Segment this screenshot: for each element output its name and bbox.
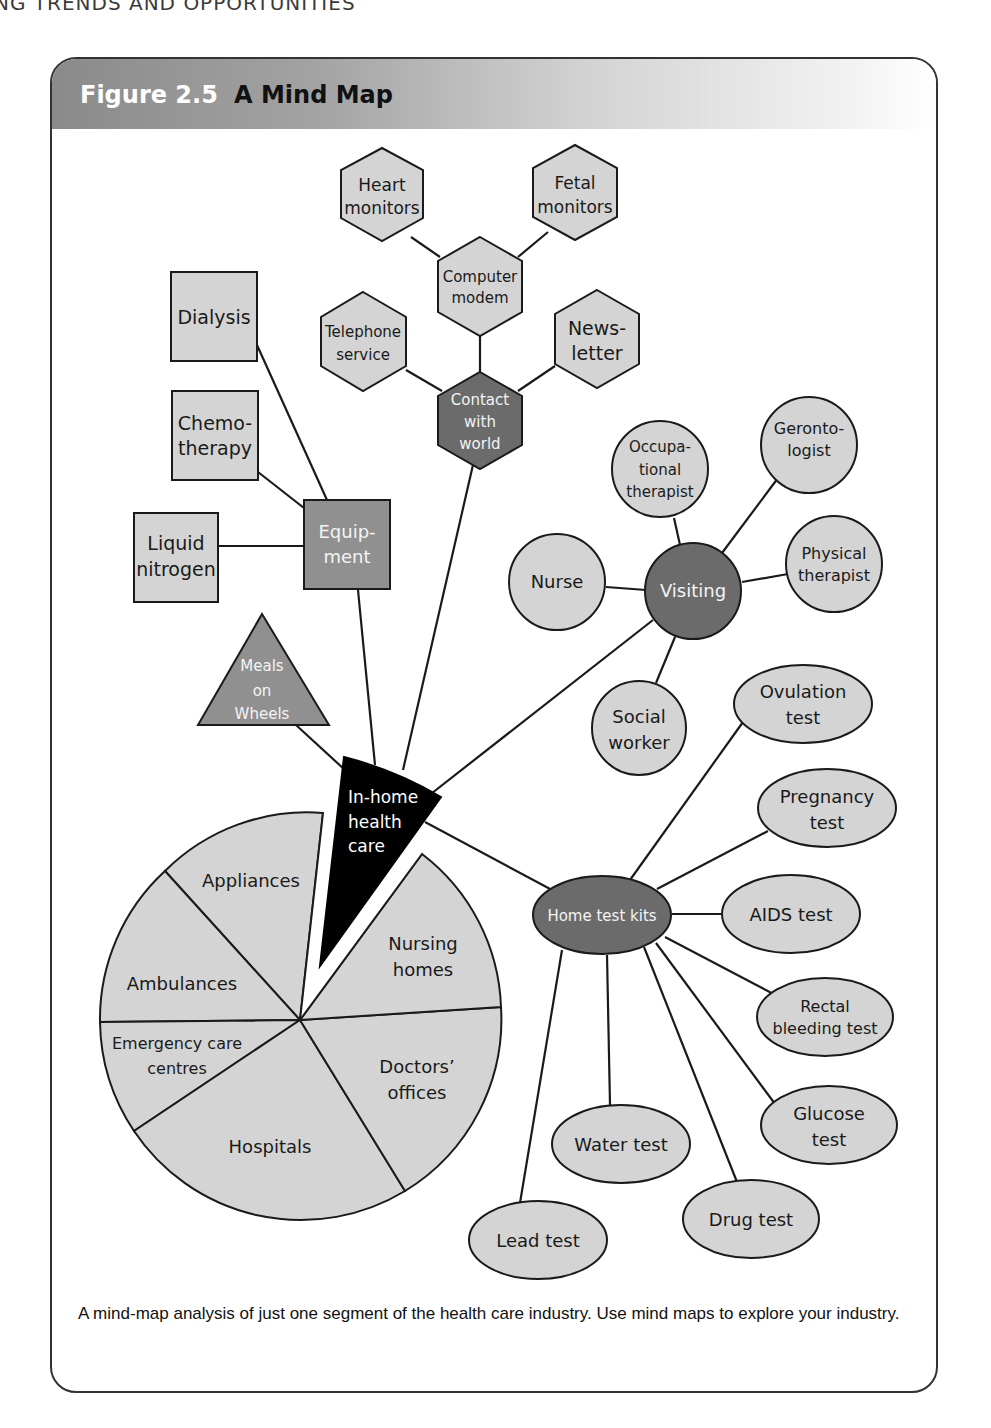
- label-heart-monitors-2: monitors: [344, 198, 420, 218]
- label-glucose-2: test: [812, 1129, 847, 1150]
- label-computer-modem-1: Computer: [443, 268, 518, 286]
- node-glucose-test: [761, 1086, 897, 1164]
- label-pregnancy-1: Pregnancy: [780, 786, 875, 807]
- node-equipment: [304, 500, 390, 589]
- label-equipment-1: Equip-: [318, 521, 375, 542]
- label-liquid-nitrogen-1: Liquid: [147, 532, 204, 554]
- label-rectal-1: Rectal: [800, 997, 850, 1016]
- node-chemotherapy: [172, 391, 258, 480]
- node-newsletter: [555, 290, 639, 388]
- label-nursing-1: Nursing: [388, 933, 458, 954]
- label-fetal-monitors-2: monitors: [537, 197, 613, 217]
- label-doctors-2: offices: [388, 1082, 447, 1103]
- node-ovulation-test: [734, 665, 872, 743]
- label-newsletter-1: News-: [568, 317, 626, 339]
- label-meals-2: on: [253, 682, 272, 700]
- label-ovulation-1: Ovulation: [760, 681, 847, 702]
- label-occupational-3: therapist: [626, 483, 693, 501]
- label-physical-1: Physical: [801, 544, 866, 563]
- label-telephone-1: Telephone: [324, 323, 401, 341]
- node-pregnancy-test: [758, 769, 896, 847]
- figure-caption: A mind-map analysis of just one segment …: [78, 1300, 918, 1328]
- label-fetal-monitors-1: Fetal: [554, 173, 595, 193]
- label-center-3: care: [348, 836, 385, 856]
- label-computer-modem-2: modem: [451, 289, 508, 307]
- label-center-2: health: [348, 812, 402, 832]
- label-telephone-2: service: [336, 346, 390, 364]
- label-home-test-kits: Home test kits: [547, 907, 656, 925]
- label-rectal-2: bleeding test: [773, 1019, 878, 1038]
- node-physical-therapist: [786, 516, 882, 612]
- label-doctors-1: Doctors’: [379, 1056, 454, 1077]
- test-kits-branch: [469, 665, 897, 1279]
- label-occupational-1: Occupa-: [629, 438, 691, 456]
- label-equipment-2: ment: [323, 546, 370, 567]
- label-social-1: Social: [612, 706, 665, 727]
- label-water: Water test: [574, 1134, 668, 1155]
- label-visiting: Visiting: [660, 580, 726, 601]
- label-dialysis: Dialysis: [177, 306, 250, 328]
- label-gerontologist-1: Geronto-: [774, 419, 845, 438]
- mind-map: In-home health care Heart monitors Fetal…: [0, 0, 991, 1428]
- label-glucose-1: Glucose: [793, 1103, 865, 1124]
- label-emergency-2: centres: [147, 1059, 206, 1078]
- label-contact-3: world: [459, 435, 500, 453]
- label-social-2: worker: [608, 732, 670, 753]
- label-chemo-2: therapy: [178, 437, 252, 459]
- label-chemo-1: Chemo-: [178, 412, 252, 434]
- label-lead: Lead test: [496, 1230, 580, 1251]
- label-occupational-2: tional: [639, 461, 681, 479]
- label-newsletter-2: letter: [571, 342, 623, 364]
- node-rectal-bleeding-test: [757, 978, 893, 1056]
- label-ovulation-2: test: [786, 707, 821, 728]
- label-appliances: Appliances: [202, 870, 300, 891]
- label-nursing-2: homes: [393, 959, 453, 980]
- label-meals-3: Wheels: [235, 705, 290, 723]
- label-ambulances: Ambulances: [127, 973, 237, 994]
- label-physical-2: therapist: [798, 566, 870, 585]
- node-telephone-service: [321, 292, 406, 391]
- label-contact-1: Contact: [451, 391, 509, 409]
- label-hospitals: Hospitals: [229, 1136, 312, 1157]
- label-drug: Drug test: [709, 1209, 793, 1230]
- industry-pie: [100, 812, 501, 1220]
- label-center-1: In-home: [348, 787, 418, 807]
- label-nurse: Nurse: [531, 571, 584, 592]
- label-heart-monitors-1: Heart: [358, 175, 406, 195]
- label-liquid-nitrogen-2: nitrogen: [136, 558, 216, 580]
- label-emergency-1: Emergency care: [112, 1034, 242, 1053]
- label-meals-1: Meals: [240, 657, 284, 675]
- label-pregnancy-2: test: [810, 812, 845, 833]
- label-aids: AIDS test: [749, 904, 832, 925]
- node-social-worker: [592, 681, 686, 775]
- label-contact-2: with: [464, 413, 496, 431]
- label-gerontologist-2: logist: [787, 441, 830, 460]
- node-computer-modem: [438, 237, 522, 336]
